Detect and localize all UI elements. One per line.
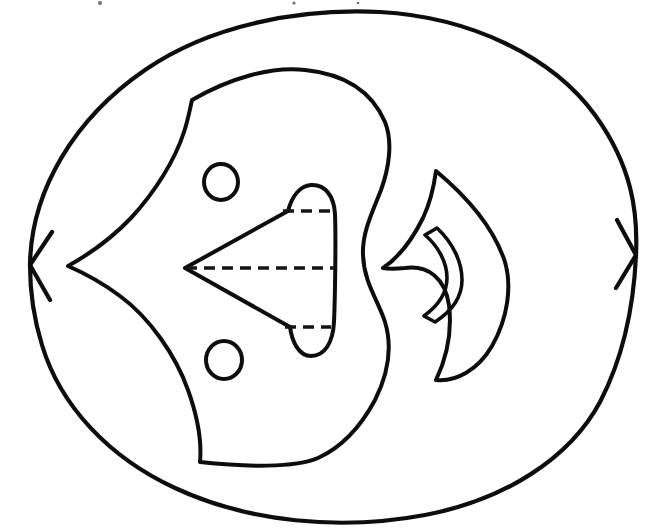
scan-speck-1 xyxy=(98,1,102,5)
drawing-canvas xyxy=(0,0,656,532)
scan-speck-2 xyxy=(292,1,295,4)
line-drawing-figure xyxy=(0,0,656,532)
scan-speck-3 xyxy=(357,2,360,5)
